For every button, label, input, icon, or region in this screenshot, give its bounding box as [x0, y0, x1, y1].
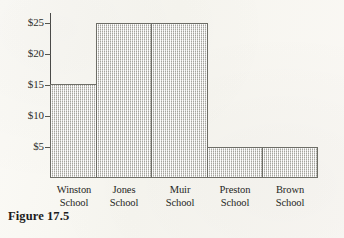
bar-winston-school[interactable]: [50, 84, 97, 178]
x-label-brown-school: Brown School: [254, 183, 326, 209]
figure-17-5: $5 $10 $15 $20 $25 Winston Sc: [0, 0, 344, 238]
bar-muir-school[interactable]: [151, 23, 208, 178]
bar-jones-school[interactable]: [96, 23, 152, 178]
bars-group: [0, 0, 344, 178]
bar-chart-plot: $5 $10 $15 $20 $25 Winston Sc: [0, 0, 344, 200]
bar-brown-school[interactable]: [262, 147, 318, 178]
figure-caption: Figure 17.5: [8, 209, 69, 224]
bar-preston-school[interactable]: [207, 147, 263, 178]
